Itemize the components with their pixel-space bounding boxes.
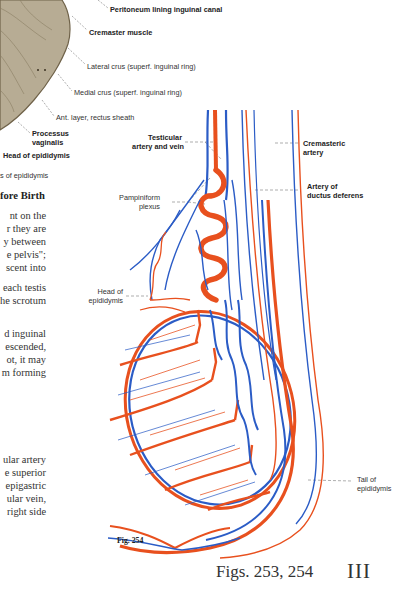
text-line: e pelvis"; [0, 248, 46, 261]
text-line: r they are [0, 222, 46, 235]
label-testicular-2: artery and vein [102, 142, 184, 151]
text-line: y between [0, 235, 46, 248]
text-line: epigastric [0, 479, 46, 492]
label-artery-ductus-2: ductus deferens [307, 191, 363, 200]
label-peritoneum: Peritoneum lining inguinal canal [110, 5, 222, 14]
label-head-epididymis-253: Head of epididymis [3, 151, 70, 160]
paragraph-1: nt on the r they are y between e pelvis"… [0, 209, 46, 274]
figure-caption-254: Fig. 254 [117, 536, 143, 545]
label-ant-layer-rectus: Ant. layer, rectus sheath [56, 113, 134, 122]
page-figures-reference: Figs. 253, 254 [216, 562, 313, 582]
text-line: ular vein, [0, 492, 46, 505]
label-testicular-1: Testicular [122, 133, 182, 142]
chapter-number: III [347, 559, 371, 584]
label-processus-2: vaginalis [32, 138, 63, 147]
text-line: d inguinal [0, 327, 46, 340]
label-tail-epididymis-1: Tail of [357, 475, 376, 484]
label-tail-epididymis-2: epididymis [357, 484, 391, 493]
label-pampiniform-1: Pampiniform [100, 193, 160, 202]
text-line: ular artery [0, 453, 46, 466]
label-pampiniform-2: plexus [100, 202, 160, 211]
label-cremasteric-1: Cremasteric [303, 139, 345, 148]
label-head-epididymis-254-1: Head of [75, 287, 123, 296]
text-line: e superior [0, 466, 46, 479]
label-cremasteric-2: artery [303, 148, 323, 157]
text-line: ot, it may [0, 353, 46, 366]
label-body-epididymis-253: s of epididymis [0, 171, 48, 180]
text-line: he scrotum [0, 294, 46, 307]
text-line: scent into [0, 261, 46, 274]
label-artery-ductus-1: Artery of [307, 182, 337, 191]
label-cremaster-muscle: Cremaster muscle [89, 28, 152, 37]
text-line: m forming [0, 366, 46, 379]
label-processus-1: Processus [32, 129, 69, 138]
paragraph-3: d inguinal escended, ot, it may m formin… [0, 327, 46, 379]
label-lateral-crus: Lateral crus (superf. inguinal ring) [87, 62, 196, 71]
section-heading: fore Birth [0, 190, 43, 201]
text-line: each testis [0, 281, 46, 294]
text-line: nt on the [0, 209, 46, 222]
fig254-testis-vascular-illustration [0, 0, 419, 597]
label-head-epididymis-254-2: epididymis [75, 296, 123, 305]
paragraph-4: ular artery e superior epigastric ular v… [0, 453, 46, 518]
text-line: right side [0, 505, 46, 518]
label-medial-crus: Medial crus (superf. inguinal ring) [74, 88, 182, 97]
paragraph-2: each testis he scrotum [0, 281, 46, 307]
text-line: escended, [0, 340, 46, 353]
